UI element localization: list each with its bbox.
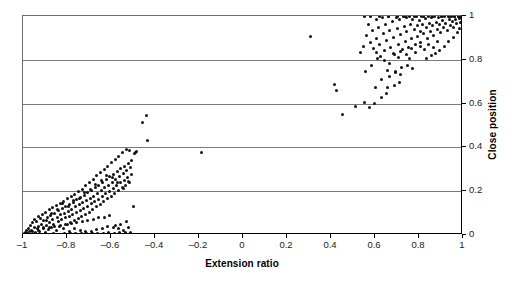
data-point — [443, 45, 446, 48]
data-point — [122, 187, 125, 190]
data-point — [48, 208, 51, 211]
data-point — [90, 202, 93, 205]
data-point — [410, 47, 413, 50]
x-tick-mark — [242, 234, 243, 238]
data-point — [68, 215, 71, 218]
data-point — [130, 173, 133, 176]
data-point — [401, 48, 404, 51]
data-point — [113, 192, 116, 195]
data-point — [97, 216, 100, 219]
y-tick-label: 0.2 — [469, 184, 482, 195]
data-point — [388, 62, 391, 65]
data-point — [375, 37, 378, 40]
data-point — [444, 22, 447, 25]
data-point — [67, 210, 70, 213]
data-point — [96, 192, 99, 195]
data-point — [458, 27, 461, 30]
data-point — [438, 23, 441, 26]
data-point — [104, 192, 107, 195]
data-point — [51, 218, 54, 221]
x-tick-mark — [374, 234, 375, 238]
data-point — [101, 195, 104, 198]
data-point — [93, 200, 96, 203]
data-point — [112, 226, 115, 229]
data-point — [436, 28, 439, 31]
data-point — [129, 231, 132, 233]
data-point — [369, 16, 372, 18]
x-tick-label: 0.4 — [310, 239, 350, 250]
data-point — [434, 52, 437, 55]
data-point — [409, 23, 412, 26]
data-point — [78, 203, 81, 206]
data-point — [382, 32, 385, 35]
data-point — [405, 30, 408, 33]
data-point — [99, 203, 102, 206]
data-point — [371, 29, 374, 32]
data-point — [45, 219, 48, 222]
data-point — [397, 56, 400, 59]
data-point — [422, 16, 425, 18]
data-point — [35, 220, 38, 223]
data-point — [459, 21, 461, 24]
data-point — [416, 35, 419, 38]
x-tick-label: –1 — [2, 239, 42, 250]
data-point — [105, 178, 108, 181]
data-point — [40, 223, 43, 226]
x-tick-label: –0.6 — [90, 239, 130, 250]
data-point — [79, 209, 82, 212]
y-tick-label: 0.4 — [469, 140, 482, 151]
data-point — [410, 37, 413, 40]
data-point — [110, 161, 113, 164]
scatter-chart-figure: –1–0.8–0.6–0.4–0.200.20.40.60.81 00.20.4… — [0, 0, 515, 282]
data-point — [385, 92, 388, 95]
data-point — [94, 183, 97, 186]
data-point — [122, 229, 125, 232]
data-point — [432, 34, 435, 37]
y-tick-mark — [462, 146, 466, 147]
data-point — [100, 189, 103, 192]
data-point — [70, 208, 73, 211]
data-point — [394, 70, 397, 73]
data-point — [56, 216, 59, 219]
data-point — [397, 43, 400, 46]
data-point — [393, 84, 396, 87]
data-point — [200, 151, 203, 154]
data-point — [81, 188, 84, 191]
data-point — [95, 228, 98, 231]
data-point — [67, 205, 70, 208]
data-point — [455, 22, 458, 25]
data-point — [53, 212, 56, 215]
data-point — [369, 41, 372, 44]
data-point — [95, 205, 98, 208]
data-point — [433, 16, 436, 18]
data-point — [73, 227, 76, 230]
data-point — [378, 16, 381, 18]
data-point — [364, 70, 367, 73]
data-point — [122, 172, 125, 175]
data-point — [72, 199, 75, 202]
data-point — [117, 227, 120, 230]
data-point — [127, 162, 130, 165]
data-point — [117, 189, 120, 192]
data-point — [111, 181, 114, 184]
data-point — [387, 16, 390, 18]
data-point — [107, 231, 110, 233]
data-point — [419, 41, 422, 44]
data-point — [106, 197, 109, 200]
data-point — [75, 221, 78, 224]
data-point — [367, 23, 370, 26]
x-tick-label: –0.8 — [46, 239, 86, 250]
y-tick-label: 0.8 — [469, 53, 482, 64]
data-point — [368, 106, 371, 109]
data-point — [60, 218, 63, 221]
plot-area — [22, 15, 462, 234]
data-point — [440, 16, 443, 18]
data-point — [75, 211, 78, 214]
data-point — [108, 190, 111, 193]
x-axis-title: Extension ratio — [22, 258, 462, 269]
data-point — [442, 26, 445, 29]
data-point — [423, 48, 426, 51]
data-point — [105, 174, 108, 177]
x-tick-mark — [286, 234, 287, 238]
data-point — [84, 213, 87, 216]
